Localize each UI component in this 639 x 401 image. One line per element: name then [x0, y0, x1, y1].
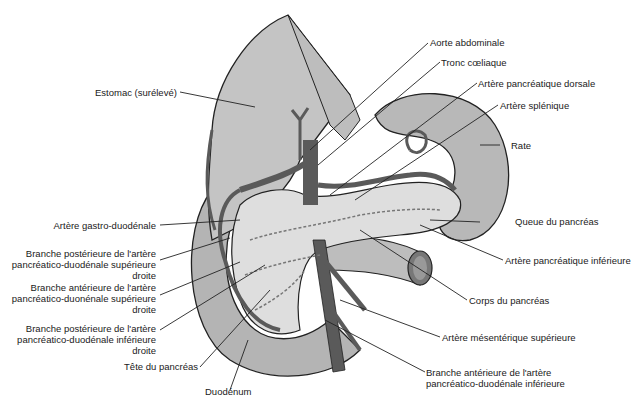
label-artere-mesenterique-superieure: Artère mésentérique supérieure [442, 332, 576, 343]
label-queue-pancreas: Queue du pancréas [515, 216, 598, 227]
label-rate: Rate [511, 140, 531, 151]
label-artere-gastro-duodenale: Artère gastro-duodénale [0, 220, 156, 231]
label-branche-post-sup: Branche postérieure de l'artère pancréat… [0, 248, 156, 281]
label-tronc-coeliaque: Tronc cœliaque [441, 57, 507, 68]
label-artere-splenique: Artère splénique [500, 100, 569, 111]
label-branche-post-inf: Branche postérieure de l'artère pancréat… [0, 323, 156, 356]
label-aorte-abdominale: Aorte abdominale [430, 37, 504, 48]
label-branche-ant-sup: Branche antérieure de l'artère pancréati… [0, 282, 156, 315]
label-artere-pancreatique-dorsale: Artère pancréatique dorsale [478, 78, 595, 89]
label-tete-pancreas: Tête du pancréas [0, 361, 198, 372]
label-estomac: Estomac (surélevé) [95, 87, 177, 98]
label-corps-pancreas: Corps du pancréas [469, 295, 549, 306]
label-branche-ant-inf: Branche antérieure de l'artère pancréati… [426, 367, 565, 389]
label-duodenum: Duodénum [205, 386, 251, 397]
label-artere-pancreatique-inferieure: Artère pancréatique inférieure [505, 255, 631, 266]
